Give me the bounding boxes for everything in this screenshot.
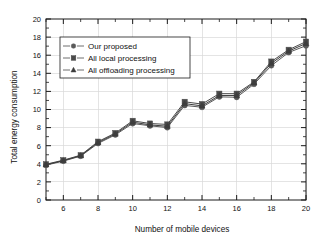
- y-tick-label: 12: [33, 87, 41, 96]
- x-tick-label: 14: [198, 204, 206, 213]
- y-tick-label: 0: [37, 196, 41, 205]
- y-tick-label: 16: [33, 51, 41, 60]
- x-tick-label: 16: [232, 204, 240, 213]
- y-tick-label: 4: [37, 160, 41, 169]
- chart-figure: 6810121416182002468101214161820 Our prop…: [0, 0, 324, 241]
- y-tick-label: 2: [37, 178, 41, 187]
- y-tick-label: 10: [33, 105, 41, 114]
- x-axis-title: Number of mobile devices: [135, 225, 230, 234]
- legend-label: Our proposed: [88, 42, 137, 51]
- y-tick-label: 6: [37, 142, 41, 151]
- line-chart-svg: 6810121416182002468101214161820 Our prop…: [0, 0, 324, 241]
- y-tick-label: 18: [33, 33, 41, 42]
- x-tick-label: 18: [267, 204, 275, 213]
- x-tick-label: 8: [96, 204, 100, 213]
- legend-label: All local processing: [88, 54, 156, 63]
- x-tick-label: 6: [61, 204, 65, 213]
- legend-label: All offloading processing: [88, 66, 175, 75]
- y-tick-label: 14: [33, 69, 41, 78]
- y-tick-label: 20: [33, 15, 41, 24]
- data-point-square: [71, 56, 76, 61]
- x-tick-label: 10: [128, 204, 136, 213]
- legend: Our proposedAll local processingAll offl…: [60, 37, 190, 78]
- data-point-circle: [71, 44, 76, 49]
- x-tick-label: 12: [163, 204, 171, 213]
- y-tick-label: 8: [37, 123, 41, 132]
- y-axis-title: Total energy consumption: [10, 70, 19, 164]
- x-tick-label: 20: [302, 204, 310, 213]
